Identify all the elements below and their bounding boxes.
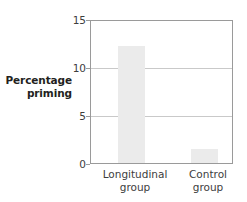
y-tick-label-5: 5 — [60, 111, 86, 122]
y-tick-label-0: 0 — [60, 159, 86, 170]
x-tick-label-line-1: Control — [176, 168, 240, 181]
bar-chart-figure: Percentage priming 15 10 5 0 Longitudina… — [0, 0, 247, 202]
y-tick-mark-0 — [86, 164, 90, 165]
y-tick-label-15: 15 — [60, 15, 86, 26]
bar-control-group — [191, 149, 218, 163]
plot-area — [90, 20, 233, 164]
x-tick-label-longitudinal-group: Longitudinal group — [96, 168, 174, 193]
y-tick-label-10: 10 — [60, 63, 86, 74]
y-axis-title-line-1: Percentage — [5, 74, 72, 86]
bar-longitudinal-group — [118, 46, 145, 163]
y-axis-title-line-2: priming — [27, 87, 72, 99]
x-tick-label-control-group: Control group — [176, 168, 240, 193]
gridline-10 — [91, 68, 232, 69]
x-tick-label-line-2: group — [96, 181, 174, 194]
x-tick-label-line-2: group — [176, 181, 240, 194]
x-tick-label-line-1: Longitudinal — [96, 168, 174, 181]
y-axis-title: Percentage priming — [0, 74, 72, 100]
gridline-5 — [91, 116, 232, 117]
